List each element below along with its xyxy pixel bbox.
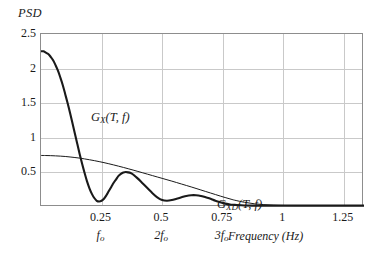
curve-label-gx-text: GX(T, f)	[91, 110, 130, 124]
plot-area: GX(T, f) GXD(T, f)	[40, 33, 363, 206]
y-tick-label: 0.5	[2, 165, 36, 177]
x-tick-label: 0.5	[131, 211, 191, 223]
x-axis-title: Frequency (Hz)	[228, 229, 303, 244]
y-tick-label: 1.5	[2, 96, 36, 108]
y-axis-title: PSD	[18, 6, 42, 21]
curve-label-gx: GX(T, f)	[91, 110, 130, 125]
curve-label-gxd-text: GXD(T, f)	[217, 197, 262, 211]
x-subtick-label-2f0: 2fo	[131, 229, 191, 243]
curve-canvas	[41, 34, 364, 207]
psd-figure: PSD 2.5 2 1.5 1 0.5 GX(T, f) GXD(T, f) 0…	[0, 0, 378, 261]
x-subtick-label-f0: fo	[71, 229, 131, 243]
y-tick-label: 2.5	[2, 27, 36, 39]
y-tick-label: 2	[2, 62, 36, 74]
x-tick-label: 1.25	[313, 211, 373, 223]
y-tick-label: 1	[2, 131, 36, 143]
x-tick-label: 0.75	[192, 211, 252, 223]
x-tick-label: 0.25	[71, 211, 131, 223]
curve-gxd	[41, 155, 364, 205]
x-tick-label: 1	[252, 211, 312, 223]
curve-gx	[41, 51, 364, 205]
y-axis-tick-labels: 2.5 2 1.5 1 0.5	[0, 33, 36, 206]
